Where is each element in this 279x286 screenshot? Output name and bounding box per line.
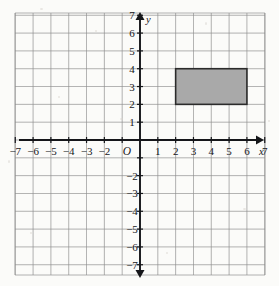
tick-label: 5 — [129, 45, 135, 57]
tick-label: 2 — [129, 98, 135, 110]
paper-speck — [268, 120, 270, 122]
y-axis-label: y — [145, 14, 151, 25]
paper-speck — [58, 96, 60, 98]
tick-label: −2 — [126, 170, 138, 182]
tick-label: 6 — [244, 145, 250, 157]
tick-label: −3 — [126, 187, 138, 199]
tick-label: 4 — [129, 63, 135, 75]
tick-label: −4 — [126, 205, 138, 217]
tick-label: −7 — [9, 145, 21, 157]
tick-label: −5 — [126, 223, 138, 235]
paper-speck — [40, 8, 43, 10]
tick-label: 5 — [226, 145, 232, 157]
paper-speck — [95, 30, 97, 32]
tick-label: −5 — [45, 145, 57, 157]
tick-label: 7 — [129, 9, 135, 21]
paper-speck — [243, 208, 246, 210]
tick-label: 3 — [129, 81, 135, 93]
tick-label: 1 — [129, 116, 135, 128]
x-axis-label: x — [258, 146, 264, 157]
tick-label: 3 — [191, 145, 197, 157]
paper-speck — [8, 160, 10, 163]
origin-label: O — [123, 145, 132, 157]
paper-speck — [205, 22, 207, 25]
tick-label: −4 — [63, 145, 75, 157]
paper-speck — [30, 232, 32, 234]
tick-label: −2 — [99, 145, 111, 157]
coordinate-plane-svg: −7−6−5−4−3−212345677654321−2−3−4−5−6−7 x… — [0, 0, 279, 286]
tick-label: −6 — [126, 241, 138, 253]
tick-label: 1 — [155, 145, 161, 157]
shaded-rectangle — [176, 69, 247, 105]
tick-label: −7 — [126, 259, 138, 271]
paper-speck — [120, 118, 123, 120]
tick-label: 2 — [173, 145, 179, 157]
tick-label: 4 — [209, 145, 215, 157]
coordinate-plane-figure: −7−6−5−4−3−212345677654321−2−3−4−5−6−7 x… — [0, 0, 279, 286]
tick-label: 6 — [129, 27, 135, 39]
tick-label: −6 — [27, 145, 39, 157]
tick-label: −3 — [81, 145, 93, 157]
paper-speck — [166, 252, 168, 254]
